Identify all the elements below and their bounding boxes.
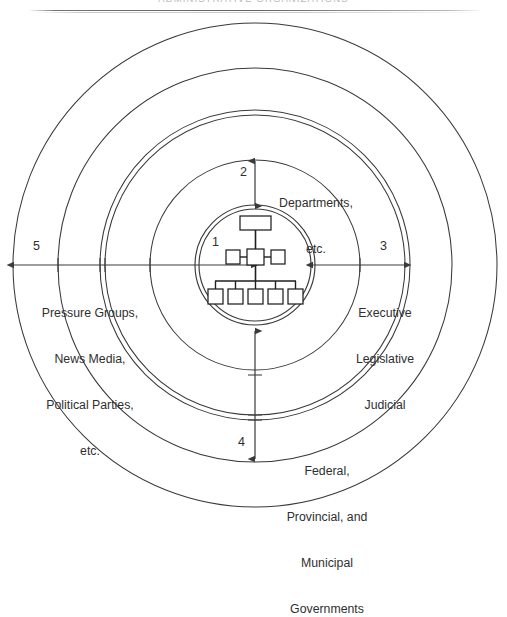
- ring-number-5: 5: [33, 240, 40, 253]
- ring-label-5-line-1: Pressure Groups,: [22, 306, 158, 321]
- ring-label-2-line-2: etc.: [262, 242, 370, 257]
- org-box-bottom-5: [288, 289, 303, 304]
- ring-label-5-line-4: etc.: [22, 444, 158, 459]
- ring-label-5: Pressure Groups, News Media, Political P…: [22, 275, 158, 491]
- ring-label-3: Executive Legislative Judicial: [333, 275, 437, 444]
- ring-label-4-line-2: Provincial, and: [268, 510, 386, 525]
- ring-number-1: 1: [212, 236, 219, 249]
- org-box-bottom-1: [208, 289, 223, 304]
- ring-label-5-line-3: Political Parties,: [22, 398, 158, 413]
- ring-number-2: 2: [240, 166, 247, 179]
- ring-number-4: 4: [238, 436, 245, 449]
- org-box-bottom-4: [268, 289, 283, 304]
- org-box-bottom-3: [248, 289, 263, 304]
- ring-label-3-line-3: Judicial: [333, 398, 437, 413]
- ring-label-4-line-4: Governments: [268, 602, 386, 617]
- ring-label-5-line-2: News Media,: [22, 352, 158, 367]
- ring-label-4: Federal, Provincial, and Municipal Gover…: [268, 433, 386, 617]
- ring-label-2: Departments, etc.: [262, 165, 370, 288]
- ring-label-4-line-1: Federal,: [268, 464, 386, 479]
- ring-label-3-line-1: Executive: [333, 306, 437, 321]
- ring-label-4-line-3: Municipal: [268, 556, 386, 571]
- ring-number-3: 3: [380, 240, 387, 253]
- ring-label-2-line-1: Departments,: [262, 196, 370, 211]
- org-box-bottom-2: [228, 289, 243, 304]
- org-box-mid-left: [226, 250, 240, 264]
- ring-label-3-line-2: Legislative: [333, 352, 437, 367]
